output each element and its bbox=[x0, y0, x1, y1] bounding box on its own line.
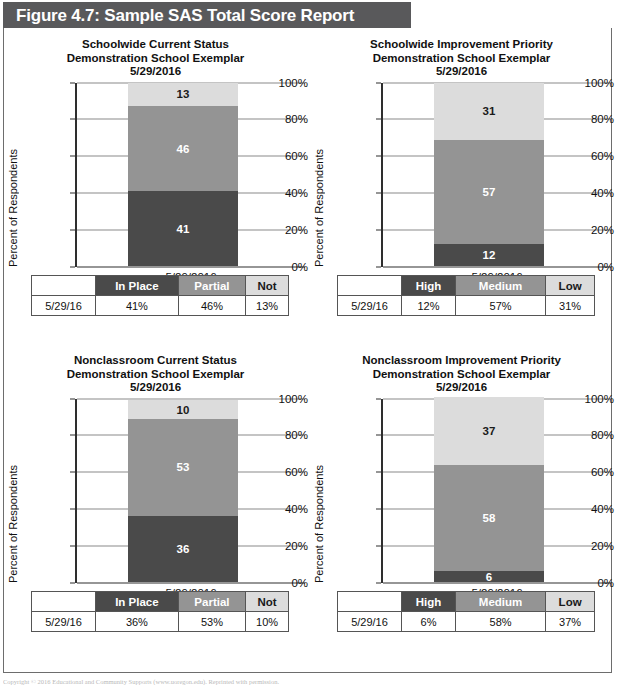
y-tick-label: 60% bbox=[262, 150, 308, 162]
bar-segment-high: 12 bbox=[434, 244, 544, 266]
y-axis-line bbox=[75, 83, 77, 267]
chart-panel-nonclassroom-improvement-priority: Nonclassroom Improvement Priority Demons… bbox=[309, 345, 614, 667]
y-tick-label: 100% bbox=[568, 77, 614, 89]
copyright-notice: Copyright © 2016 Educational and Communi… bbox=[3, 678, 615, 685]
y-tick-label: 100% bbox=[262, 77, 308, 89]
legend-header-2: Medium bbox=[455, 592, 545, 612]
bar-segment-low: 37 bbox=[434, 397, 544, 465]
y-tick-label: 20% bbox=[568, 540, 614, 552]
legend-header-1: In Place bbox=[96, 276, 179, 296]
chart-title-line1: Schoolwide Current Status bbox=[3, 38, 308, 52]
plot-area: Percent of Respondents0%20%40%60%80%100%… bbox=[309, 399, 614, 609]
y-axis-line bbox=[75, 399, 77, 583]
legend-value-3: 31% bbox=[546, 296, 595, 316]
bar-segment-value: 13 bbox=[177, 88, 190, 100]
bar-segment-not: 10 bbox=[128, 400, 238, 418]
bar-segment-value: 46 bbox=[177, 143, 190, 155]
y-tick-label: 20% bbox=[262, 540, 308, 552]
legend-header-2: Medium bbox=[455, 276, 545, 296]
chart-title-block: Schoolwide Improvement Priority Demonstr… bbox=[309, 38, 614, 79]
bar-segment-high: 6 bbox=[434, 571, 544, 582]
chart-title-line2: Demonstration School Exemplar bbox=[309, 52, 614, 66]
y-tick-label: 20% bbox=[262, 224, 308, 236]
legend-corner-cell bbox=[338, 276, 402, 296]
y-axis-line bbox=[381, 83, 383, 267]
bar-segment-value: 41 bbox=[177, 223, 190, 235]
bar-segment-value: 57 bbox=[483, 186, 496, 198]
legend-corner-cell bbox=[32, 276, 96, 296]
legend-header-2: Partial bbox=[178, 592, 245, 612]
bar-segment-not: 13 bbox=[128, 83, 238, 107]
bar-segment-value: 58 bbox=[483, 512, 496, 524]
table-row: 5/29/16 12% 57% 31% bbox=[338, 296, 595, 316]
bar-segment-value: 12 bbox=[483, 249, 496, 261]
chart-title-block: Nonclassroom Improvement Priority Demons… bbox=[309, 354, 614, 395]
chart-title-block: Nonclassroom Current Status Demonstratio… bbox=[3, 354, 308, 395]
bar-segment-in-place: 41 bbox=[128, 191, 238, 266]
y-tick-label: 100% bbox=[262, 393, 308, 405]
y-axis-label: Percent of Respondents bbox=[7, 133, 19, 283]
legend-value-2: 46% bbox=[178, 296, 245, 316]
legend-value-2: 53% bbox=[178, 612, 245, 632]
y-tick-label: 60% bbox=[262, 466, 308, 478]
y-tick-label: 40% bbox=[568, 503, 614, 515]
bar-segment-medium: 58 bbox=[434, 465, 544, 572]
legend-row-label: 5/29/16 bbox=[338, 296, 402, 316]
legend-row-label: 5/29/16 bbox=[32, 612, 96, 632]
y-tick-label: 80% bbox=[568, 429, 614, 441]
table-row: 5/29/16 6% 58% 37% bbox=[338, 612, 595, 632]
y-tick-label: 40% bbox=[568, 187, 614, 199]
bar-segment-low: 31 bbox=[434, 83, 544, 140]
legend-value-1: 41% bbox=[96, 296, 179, 316]
bar-segment-value: 6 bbox=[486, 571, 492, 583]
legend-corner-cell bbox=[32, 592, 96, 612]
bar-segment-value: 10 bbox=[177, 404, 190, 416]
legend-value-1: 6% bbox=[402, 612, 456, 632]
legend-value-2: 57% bbox=[455, 296, 545, 316]
legend-header-2: Partial bbox=[178, 276, 245, 296]
y-tick-label: 80% bbox=[568, 113, 614, 125]
legend-table: In Place Partial Not 5/29/16 41% 46% 13% bbox=[31, 275, 289, 316]
plot-area: Percent of Respondents0%20%40%60%80%100%… bbox=[309, 83, 614, 293]
legend-header-3: Not bbox=[246, 276, 289, 296]
chart-title-line2: Demonstration School Exemplar bbox=[3, 52, 308, 66]
chart-title-block: Schoolwide Current Status Demonstration … bbox=[3, 38, 308, 79]
y-tick-label: 100% bbox=[568, 393, 614, 405]
bar-segment-value: 37 bbox=[483, 425, 496, 437]
legend-value-3: 37% bbox=[546, 612, 595, 632]
chart-title-line2: Demonstration School Exemplar bbox=[3, 368, 308, 382]
chart-panel-schoolwide-current-status: Schoolwide Current Status Demonstration … bbox=[3, 29, 308, 351]
table-row: 5/29/16 36% 53% 10% bbox=[32, 612, 289, 632]
y-axis-label: Percent of Respondents bbox=[313, 449, 325, 599]
y-axis-label: Percent of Respondents bbox=[313, 133, 325, 283]
bar-segment-partial: 53 bbox=[128, 419, 238, 517]
legend-table: High Medium Low 5/29/16 6% 58% 37% bbox=[337, 591, 595, 632]
chart-panel-schoolwide-improvement-priority: Schoolwide Improvement Priority Demonstr… bbox=[309, 29, 614, 351]
bar-segment-in-place: 36 bbox=[128, 516, 238, 582]
y-tick-label: 40% bbox=[262, 187, 308, 199]
chart-title-line1: Schoolwide Improvement Priority bbox=[309, 38, 614, 52]
plot-area: Percent of Respondents0%20%40%60%80%100%… bbox=[3, 83, 308, 293]
y-tick-label: 20% bbox=[568, 224, 614, 236]
legend-value-1: 36% bbox=[96, 612, 179, 632]
legend-header-row: In Place Partial Not bbox=[32, 276, 289, 296]
legend-header-row: High Medium Low bbox=[338, 276, 595, 296]
legend-header-3: Low bbox=[546, 592, 595, 612]
legend-header-1: High bbox=[402, 276, 456, 296]
stacked-bar: 125731 bbox=[434, 83, 544, 267]
legend-value-3: 13% bbox=[246, 296, 289, 316]
bar-segment-value: 36 bbox=[177, 543, 190, 555]
bar-segment-partial: 46 bbox=[128, 106, 238, 191]
legend-header-row: In Place Partial Not bbox=[32, 592, 289, 612]
table-row: 5/29/16 41% 46% 13% bbox=[32, 296, 289, 316]
legend-table: In Place Partial Not 5/29/16 36% 53% 10% bbox=[31, 591, 289, 632]
y-axis-label: Percent of Respondents bbox=[7, 449, 19, 599]
legend-header-3: Low bbox=[546, 276, 595, 296]
legend-row-label: 5/29/16 bbox=[338, 612, 402, 632]
legend-header-3: Not bbox=[246, 592, 289, 612]
y-tick-label: 60% bbox=[568, 466, 614, 478]
y-tick-label: 60% bbox=[568, 150, 614, 162]
plot-area: Percent of Respondents0%20%40%60%80%100%… bbox=[3, 399, 308, 609]
chart-panel-nonclassroom-current-status: Nonclassroom Current Status Demonstratio… bbox=[3, 345, 308, 667]
stacked-bar: 65837 bbox=[434, 399, 544, 583]
